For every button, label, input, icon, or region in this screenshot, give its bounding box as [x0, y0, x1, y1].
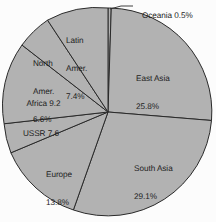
slice-label-north-amer-line2: Amer.	[33, 87, 54, 96]
slice-label-north-amer-line1: North	[33, 59, 54, 68]
slice-label-south-asia-name: South Asia	[134, 164, 173, 173]
slice-label-east-asia-value: 25.8%	[136, 102, 170, 111]
slice-label-east-asia: East Asia 25.8%	[136, 56, 170, 130]
slice-label-europe: Europe 13.8%	[46, 152, 72, 222]
pie-chart-figure: Oceania 0.5% East Asia 25.8% South Asia …	[0, 0, 216, 222]
slice-label-south-asia: South Asia 29.1%	[134, 146, 173, 220]
slice-label-europe-value: 13.8%	[46, 198, 72, 207]
slice-label-latin-amer: Latin Amer. 7.4%	[66, 18, 87, 119]
slice-label-north-amer-value: 6.6%	[33, 115, 54, 124]
slice-label-north-amer: North Amer. 6.6%	[33, 41, 54, 142]
slice-label-europe-name: Europe	[46, 170, 72, 179]
slice-label-oceania-text: Oceania 0.5%	[142, 11, 193, 20]
slice-label-latin-amer-value: 7.4%	[66, 92, 87, 101]
slice-label-east-asia-name: East Asia	[136, 74, 170, 83]
slice-label-latin-amer-line1: Latin	[66, 36, 87, 45]
slice-label-oceania: Oceania 0.5%	[133, 2, 193, 30]
slice-label-latin-amer-line2: Amer.	[66, 64, 87, 73]
slice-label-south-asia-value: 29.1%	[134, 192, 173, 201]
